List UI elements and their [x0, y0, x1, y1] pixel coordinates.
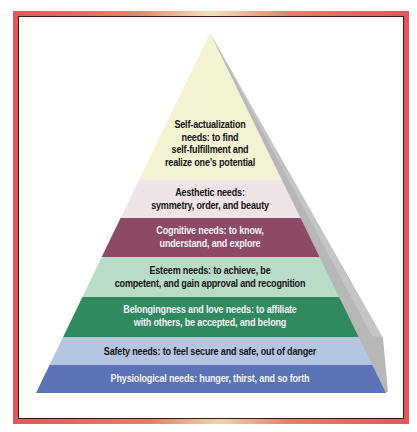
label-line: with others, be accepted, and belong	[72, 316, 347, 329]
label-line: Aesthetic needs:	[107, 186, 313, 199]
label-cognitive: Cognitive needs: to know, understand, an…	[107, 224, 313, 249]
label-line: Belongingness and love needs: to affilia…	[72, 303, 347, 316]
label-line: understand, and explore	[107, 237, 313, 250]
label-line: Cognitive needs: to know,	[107, 224, 313, 237]
label-line: needs: to find	[124, 131, 296, 144]
pyramid-graphic	[0, 0, 417, 432]
label-belongingness: Belongingness and love needs: to affilia…	[72, 303, 347, 328]
label-line: Physiological needs: hunger, thirst, and…	[55, 372, 365, 385]
label-line: Safety needs: to feel secure and safe, o…	[55, 345, 365, 358]
label-esteem: Esteem needs: to achieve, be competent, …	[72, 264, 347, 289]
label-self-actualization: Self-actualization needs: to find self-f…	[124, 118, 296, 168]
label-line: realize one’s potential	[124, 156, 296, 169]
label-line: competent, and gain approval and recogni…	[72, 277, 347, 290]
label-line: self-fulfillment and	[124, 143, 296, 156]
label-safety: Safety needs: to feel secure and safe, o…	[55, 345, 365, 358]
label-line: Self-actualization	[124, 118, 296, 131]
label-line: symmetry, order, and beauty	[107, 199, 313, 212]
label-physiological: Physiological needs: hunger, thirst, and…	[55, 372, 365, 385]
label-aesthetic: Aesthetic needs: symmetry, order, and be…	[107, 186, 313, 211]
label-line: Esteem needs: to achieve, be	[72, 264, 347, 277]
